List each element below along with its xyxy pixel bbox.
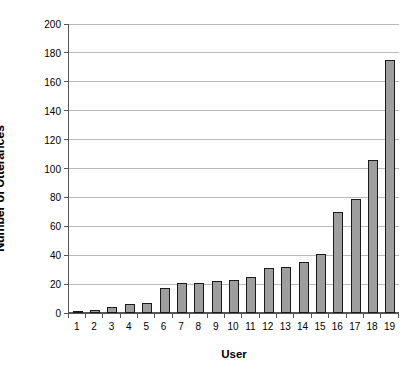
x-tick-slot — [85, 313, 102, 319]
x-tick-slot — [155, 313, 172, 319]
x-tick-slot — [68, 313, 85, 319]
x-axis-tick-label: 1 — [68, 321, 85, 337]
x-axis-tick-label: 17 — [346, 321, 363, 337]
bar-slot — [191, 24, 208, 313]
bar-11 — [246, 277, 256, 313]
x-axis-tick-label: 13 — [277, 321, 294, 337]
bar-slot — [104, 24, 121, 313]
bar-8 — [194, 283, 204, 313]
x-tick-slot — [138, 313, 155, 319]
bar-slot — [260, 24, 277, 313]
x-tick-mark — [172, 313, 173, 318]
bar-15 — [316, 254, 326, 313]
x-tick-mark — [346, 313, 347, 318]
x-tick-mark — [328, 313, 329, 318]
x-tick-mark — [207, 313, 208, 318]
x-axis-tick-label: 9 — [207, 321, 224, 337]
x-axis-title: User — [68, 348, 400, 360]
x-tick-slot — [277, 313, 294, 319]
x-tick-mark — [68, 313, 69, 318]
bar-7 — [177, 283, 187, 313]
x-tick-slot — [329, 313, 346, 319]
x-axis-tick-label: 11 — [242, 321, 259, 337]
x-tick-mark — [276, 313, 277, 318]
bar-13 — [281, 267, 291, 313]
x-tick-mark — [85, 313, 86, 318]
bar-slot — [312, 24, 329, 313]
y-axis-tick-label: 60 — [50, 221, 61, 232]
bars-layer — [69, 24, 399, 313]
x-tick-slot — [120, 313, 137, 319]
x-tick-slot — [294, 313, 311, 319]
x-axis-tick-label: 18 — [363, 321, 380, 337]
x-axis-tick-label: 2 — [85, 321, 102, 337]
bar-slot — [330, 24, 347, 313]
bar-slot — [243, 24, 260, 313]
x-tick-slot — [381, 313, 398, 319]
x-axis-tick-label: 16 — [329, 321, 346, 337]
plot-area: 020406080100120140160180200 — [68, 24, 399, 313]
x-tick-mark — [102, 313, 103, 318]
bar-17 — [351, 199, 361, 313]
y-axis-tick-label: 200 — [44, 19, 61, 30]
x-tick-slot — [346, 313, 363, 319]
x-tick-mark — [293, 313, 294, 318]
x-tick-mark — [154, 313, 155, 318]
bar-5 — [142, 303, 152, 313]
bar-slot — [86, 24, 103, 313]
x-axis-tick-label: 6 — [155, 321, 172, 337]
bar-19 — [385, 60, 395, 313]
x-axis-tick-label: 7 — [172, 321, 189, 337]
y-axis-tick-label: 20 — [50, 279, 61, 290]
bar-slot — [225, 24, 242, 313]
x-axis-tick-label: 4 — [120, 321, 137, 337]
x-axis-tick-label: 8 — [190, 321, 207, 337]
x-tick-mark — [363, 313, 364, 318]
bar-18 — [368, 160, 378, 313]
bar-10 — [229, 280, 239, 313]
x-tick-mark — [120, 313, 121, 318]
x-axis-tick-label: 14 — [294, 321, 311, 337]
x-tick-mark — [137, 313, 138, 318]
x-axis-tick-label: 12 — [259, 321, 276, 337]
bar-slot — [69, 24, 86, 313]
bar-chart: Number of Utterances 0204060801001201401… — [0, 0, 415, 377]
bar-slot — [139, 24, 156, 313]
bar-9 — [212, 281, 222, 313]
bar-slot — [156, 24, 173, 313]
bar-slot — [278, 24, 295, 313]
x-tick-slot — [242, 313, 259, 319]
bar-slot — [347, 24, 364, 313]
x-tick-mark — [241, 313, 242, 318]
bar-12 — [264, 268, 274, 313]
x-axis-labels: 12345678910111213141516171819 — [68, 321, 398, 337]
x-tick-slot — [190, 313, 207, 319]
x-tick-slot — [259, 313, 276, 319]
bar-slot — [295, 24, 312, 313]
y-axis-tick-label: 40 — [50, 250, 61, 261]
bar-slot — [208, 24, 225, 313]
bar-4 — [125, 304, 135, 313]
x-axis-tick-label: 10 — [224, 321, 241, 337]
bar-slot — [121, 24, 138, 313]
x-tick-mark — [189, 313, 190, 318]
y-axis-tick-label: 140 — [44, 105, 61, 116]
y-axis-tick-label: 0 — [55, 308, 61, 319]
x-tick-slot — [363, 313, 380, 319]
bar-16 — [333, 212, 343, 313]
x-tick-mark — [398, 313, 399, 318]
x-tick-slot — [311, 313, 328, 319]
x-tick-slot — [224, 313, 241, 319]
bar-14 — [299, 262, 309, 313]
x-axis-tick-label: 5 — [138, 321, 155, 337]
x-axis-tick-label: 15 — [311, 321, 328, 337]
x-axis-ticks — [68, 313, 398, 319]
x-tick-mark — [311, 313, 312, 318]
x-tick-slot — [207, 313, 224, 319]
y-axis-title: Number of Utterances — [0, 0, 46, 377]
bar-slot — [364, 24, 381, 313]
x-tick-slot — [103, 313, 120, 319]
bar-slot — [173, 24, 190, 313]
y-axis-tick-label: 80 — [50, 192, 61, 203]
x-axis-tick-label: 3 — [103, 321, 120, 337]
